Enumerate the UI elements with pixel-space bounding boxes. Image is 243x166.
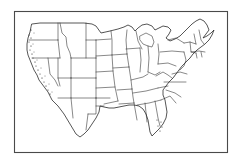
map-svg bbox=[0, 0, 243, 166]
map-figure bbox=[0, 0, 243, 166]
us-national-outline bbox=[27, 19, 214, 137]
